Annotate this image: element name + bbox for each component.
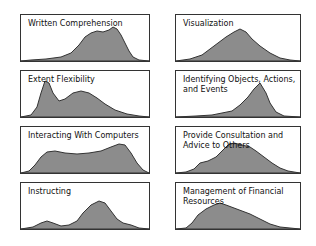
panel-instructing: Instructing bbox=[20, 182, 150, 230]
panel-title: Identifying Objects, Actions, and Events bbox=[183, 75, 295, 94]
panel-title: Management of Financial Resources bbox=[183, 187, 284, 206]
panel-management-financial: Management of Financial Resources bbox=[175, 182, 301, 230]
panel-title: Interacting With Computers bbox=[28, 131, 139, 141]
panel-extent-flexibility: Extent Flexibility bbox=[20, 70, 150, 118]
panel-interacting-with-computers: Interacting With Computers bbox=[20, 126, 150, 174]
panel-visualization: Visualization bbox=[175, 14, 301, 62]
panel-written-comprehension: Written Comprehension bbox=[20, 14, 150, 62]
panel-title: Instructing bbox=[28, 187, 71, 197]
panel-title: Provide Consultation and Advice to Other… bbox=[183, 131, 283, 150]
panel-title: Visualization bbox=[183, 19, 234, 29]
panel-title: Written Comprehension bbox=[28, 19, 123, 29]
panel-title: Extent Flexibility bbox=[28, 75, 95, 85]
panel-provide-consultation: Provide Consultation and Advice to Other… bbox=[175, 126, 301, 174]
panel-identifying-objects: Identifying Objects, Actions, and Events bbox=[175, 70, 301, 118]
